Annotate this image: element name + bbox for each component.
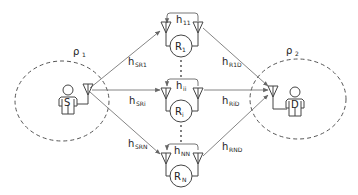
svg-text:R: R: [174, 171, 181, 182]
svg-text:h: h: [176, 14, 182, 25]
relay-i: h ii R i: [161, 79, 203, 122]
relay-1: h 11 R 1: [161, 13, 203, 57]
svg-text:h: h: [174, 145, 180, 156]
link-s-rn: [90, 92, 160, 154]
antenna-icon: [192, 22, 203, 46]
svg-text:11: 11: [183, 19, 191, 26]
antenna-icon: [192, 88, 203, 111]
svg-text:R: R: [175, 41, 182, 52]
label-h-sr1: h SR1: [128, 56, 147, 68]
destination-region-label: ρ 2: [286, 45, 299, 57]
relay-n: h NN R N: [161, 144, 203, 187]
relay-network-diagram: ρ 1 ρ 2 h SR1 h SRi h SRN h R1D h RiD h …: [0, 0, 358, 195]
svg-text:h: h: [176, 80, 182, 91]
svg-text:1: 1: [82, 51, 86, 58]
svg-text:ρ: ρ: [73, 46, 79, 57]
destination-node: D: [268, 86, 304, 116]
svg-text:SRi: SRi: [136, 100, 146, 107]
svg-text:1: 1: [182, 46, 186, 53]
ellipsis-dots: [180, 125, 182, 142]
svg-text:h: h: [129, 95, 135, 106]
svg-text:h: h: [222, 56, 228, 67]
label-h-sri: h SRi: [129, 95, 146, 107]
svg-text:h: h: [128, 138, 134, 149]
svg-text:NN: NN: [181, 150, 190, 157]
svg-text:R1D: R1D: [229, 61, 242, 68]
svg-text:R: R: [175, 106, 182, 117]
svg-text:RiD: RiD: [229, 100, 240, 107]
label-h-rnd: h RND: [222, 141, 243, 153]
svg-text:S: S: [64, 97, 70, 108]
antenna-icon: [161, 88, 171, 111]
svg-text:h: h: [128, 56, 134, 67]
antenna-icon: [161, 153, 171, 176]
svg-text:RND: RND: [229, 146, 243, 153]
svg-text:SR1: SR1: [135, 61, 147, 68]
label-h-r1d: h R1D: [222, 56, 242, 68]
svg-text:N: N: [182, 176, 187, 183]
svg-text:2: 2: [295, 50, 299, 57]
antenna-icon: [268, 86, 287, 109]
svg-text:h: h: [222, 141, 228, 152]
source-node: S: [59, 84, 93, 114]
source-region-label: ρ 1: [73, 46, 86, 58]
label-h-rid: h RiD: [222, 95, 240, 107]
svg-text:SRN: SRN: [135, 143, 147, 150]
svg-text:ii: ii: [183, 85, 187, 92]
loop-label-hnn: h NN: [174, 145, 190, 157]
antenna-icon: [161, 22, 171, 46]
svg-text:ρ: ρ: [286, 45, 292, 56]
link-s-r1: [90, 31, 160, 88]
antenna-icon: [192, 153, 203, 176]
loop-label-h11: h 11: [176, 14, 191, 26]
loop-label-hii: h ii: [176, 80, 187, 92]
ellipsis-dots: [180, 60, 182, 77]
svg-text:h: h: [222, 95, 228, 106]
link-r1-d: [203, 28, 268, 86]
svg-text:D: D: [291, 99, 299, 110]
